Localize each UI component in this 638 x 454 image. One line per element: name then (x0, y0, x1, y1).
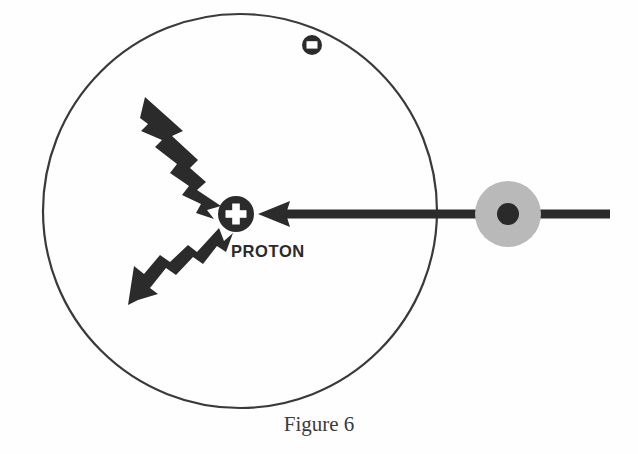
photon-wavy-arrow-lower-icon (128, 228, 233, 305)
photon-wavy-arrow-upper-icon (140, 97, 221, 219)
proton-label: PROTON (231, 243, 305, 260)
incoming-arrow-icon (258, 201, 610, 227)
electron-minus-icon (302, 35, 322, 55)
proton-plus-icon (218, 196, 254, 232)
figure-caption: Figure 6 (0, 414, 638, 435)
figure-stage: PROTON Figure 6 (0, 0, 638, 454)
incoming-particle-icon (475, 181, 541, 247)
physics-diagram (0, 0, 638, 454)
